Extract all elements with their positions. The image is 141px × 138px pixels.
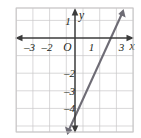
coordinate-plane-graph: –3 –2 1 3 1 –2 –3 –4 O x y: [0, 0, 141, 138]
x-tick-label-neg3: –3: [23, 41, 36, 53]
y-tick-label-neg2: –2: [63, 67, 76, 79]
y-tick-label-neg3: –3: [63, 85, 76, 97]
origin-label: O: [63, 41, 72, 53]
x-tick-label-3: 3: [118, 41, 125, 53]
graph-figure: –3 –2 1 3 1 –2 –3 –4 O x y: [0, 0, 141, 138]
x-tick-label-neg2: –2: [41, 41, 54, 53]
y-tick-label-neg4: –4: [63, 102, 76, 114]
y-axis-label: y: [78, 9, 85, 22]
x-tick-label-1: 1: [89, 41, 95, 53]
y-tick-label-1: 1: [65, 15, 71, 27]
x-axis-label: x: [128, 40, 135, 52]
